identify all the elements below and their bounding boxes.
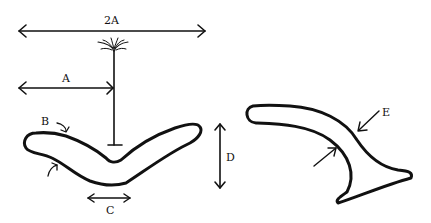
diagram-canvas: 2A A B [0,0,431,223]
curved-arrow-b-bottom [48,163,57,176]
label-c: C [106,204,114,217]
vertical-stem [98,38,128,145]
label-a: A [61,72,71,85]
dimension-d-arrow [215,124,225,188]
label-e: E [382,106,390,119]
dimension-c-arrow [88,194,130,202]
label-b: B [41,115,49,128]
arrow-e-inner [314,148,336,166]
arrow-e-outer [358,111,379,131]
diagram-svg: 2A A B [0,0,431,223]
curved-arrow-b-top [57,123,69,132]
label-2a: 2A [104,14,120,27]
label-d: D [226,151,235,164]
boomerang-shape [24,124,201,185]
